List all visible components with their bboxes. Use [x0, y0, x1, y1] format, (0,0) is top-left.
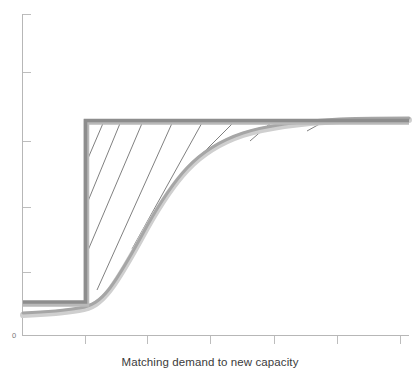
- y-axis-zero-label: 0: [12, 331, 16, 340]
- x-axis-ticks: [86, 336, 401, 345]
- hatch-line-1: [86, 121, 143, 255]
- hatch-fill-group: [86, 121, 325, 290]
- chart-container: 0 Matching demand to new capacity: [0, 0, 420, 381]
- y-axis-ticks: [23, 15, 32, 273]
- hatch-line-2: [86, 121, 121, 206]
- chart-caption: Matching demand to new capacity: [122, 356, 299, 368]
- demand-curve-group: [23, 118, 409, 315]
- demand-curve-shadow: [23, 120, 409, 315]
- axes-group: [23, 14, 410, 336]
- chart-plot-area: 0 Matching demand to new capacity: [0, 0, 420, 381]
